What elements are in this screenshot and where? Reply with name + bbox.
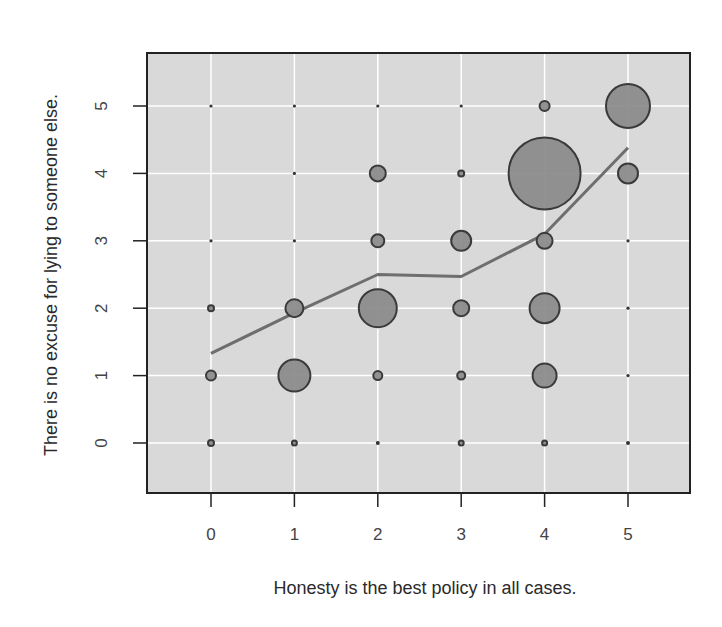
x-axis-label: Honesty is the best policy in all cases. [273, 578, 576, 598]
data-point [209, 239, 212, 242]
data-point [293, 104, 296, 107]
bubble [606, 84, 650, 128]
data-point [626, 239, 629, 242]
bubble [540, 101, 550, 111]
data-point [460, 104, 463, 107]
y-tick-label: 3 [92, 236, 111, 245]
data-point [626, 441, 630, 445]
bubble [373, 371, 382, 380]
y-tick-label: 2 [92, 303, 111, 312]
y-tick-label: 5 [92, 101, 111, 110]
y-tick-label: 0 [92, 438, 111, 447]
y-tick-label: 1 [92, 371, 111, 380]
bubble [370, 165, 386, 181]
bubble [206, 371, 216, 381]
y-axis-label: There is no excuse for lying to someone … [41, 94, 61, 456]
bubble [208, 305, 214, 311]
x-tick-label: 1 [290, 525, 299, 544]
data-point [293, 239, 296, 242]
bubble-chart: 012345 012345 Honesty is the best policy… [0, 0, 722, 627]
x-tick-label: 3 [456, 525, 465, 544]
x-tick-label: 4 [540, 525, 549, 544]
plot-panel [147, 53, 690, 493]
bubble [618, 163, 638, 183]
bubble [509, 137, 581, 209]
data-point [376, 104, 379, 107]
x-tick-label: 0 [206, 525, 215, 544]
data-point [626, 307, 629, 310]
bubble [459, 441, 464, 446]
data-point [376, 441, 380, 445]
data-point [293, 172, 296, 175]
bubble [537, 233, 553, 249]
bubble [451, 231, 471, 251]
bubble [359, 289, 397, 327]
bubble [208, 440, 214, 446]
bubble [453, 300, 469, 316]
y-tick-label: 4 [92, 169, 111, 178]
bubble [285, 299, 303, 317]
bubble [533, 364, 557, 388]
x-tick-label: 5 [623, 525, 632, 544]
x-tick-label: 2 [373, 525, 382, 544]
x-axis: 012345 [206, 493, 632, 544]
bubble [530, 293, 560, 323]
bubble [292, 441, 297, 446]
bubble [458, 170, 464, 176]
bubble [542, 441, 547, 446]
bubble [371, 234, 384, 247]
bubble [278, 360, 310, 392]
data-point [209, 104, 212, 107]
bubble [457, 372, 465, 380]
data-point [626, 374, 629, 377]
y-axis: 012345 [92, 101, 147, 447]
